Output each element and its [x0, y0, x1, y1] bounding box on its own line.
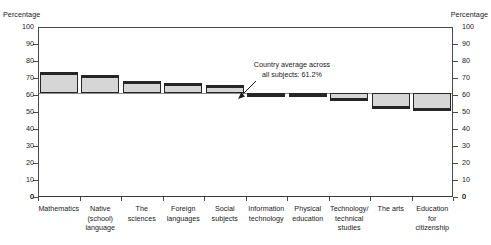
bar [123, 81, 161, 93]
left-axis-caption: Percentage [3, 10, 40, 19]
x-tick-mark [329, 197, 330, 201]
average-annotation-line1: Country average across [231, 60, 353, 70]
y-tick-mark-right [453, 78, 458, 79]
x-axis-label-line: sciences [121, 214, 163, 224]
x-tick-mark [163, 197, 164, 201]
right-axis-caption: Percentage [451, 10, 488, 19]
x-tick-mark [38, 197, 39, 201]
bar [81, 75, 119, 93]
x-axis-label-line: studies [329, 223, 371, 233]
x-axis-label-4: Socialsubjects [204, 204, 246, 223]
x-axis-label-1: Native(school)language [80, 204, 122, 233]
x-tick-mark [80, 197, 81, 201]
x-axis-label-line: Mathematics [38, 204, 80, 214]
x-axis-label-line: for [412, 214, 454, 224]
y-tick-label-right: 90 [462, 40, 480, 47]
y-tick-label-left: 70 [16, 74, 34, 81]
y-tick-label-left: 30 [16, 142, 34, 149]
y-tick-label-right: 80 [462, 57, 480, 64]
x-axis-label-2: Thesciences [121, 204, 163, 223]
x-axis-label-line: technology [246, 214, 288, 224]
bar [413, 93, 451, 111]
x-axis-label-7: Technology/technicalstudies [329, 204, 371, 233]
x-tick-mark [121, 197, 122, 201]
x-axis-label-line: Physical [287, 204, 329, 214]
y-tick-mark-right [453, 27, 458, 28]
y-tick-mark-right [453, 129, 458, 130]
y-tick-mark-right [453, 95, 458, 96]
x-axis-label-line: Foreign [163, 204, 205, 214]
x-tick-mark [287, 197, 288, 201]
y-tick-label-left: 60 [16, 91, 34, 98]
y-tick-label-right: 30 [462, 142, 480, 149]
y-tick-label-right: 20 [462, 159, 480, 166]
x-axis-label-line: technical [329, 214, 371, 224]
y-tick-label-left: 10 [16, 176, 34, 183]
x-axis-label-0: Mathematics [38, 204, 80, 214]
y-tick-label-left: 50 [16, 108, 34, 115]
x-axis-label-line: The [121, 204, 163, 214]
x-tick-mark [370, 197, 371, 201]
x-axis-label-line: language [80, 223, 122, 233]
bar [40, 72, 78, 93]
x-axis-label-line: Information [246, 204, 288, 214]
y-tick-mark-right [453, 180, 458, 181]
y-tick-label-left: 20 [16, 159, 34, 166]
bar [372, 93, 410, 109]
x-axis-label-line: Social [204, 204, 246, 214]
average-annotation: Country average across all subjects: 61.… [231, 60, 353, 79]
x-axis-label-3: Foreignlanguages [163, 204, 205, 223]
x-axis-label-line: The arts [370, 204, 412, 214]
y-tick-mark-right [453, 112, 458, 113]
y-tick-label-right: 40 [462, 125, 480, 132]
y-tick-label-right: 100 [462, 23, 480, 30]
bar [164, 83, 202, 93]
x-axis-label-line: education [287, 214, 329, 224]
bars-group [38, 27, 453, 197]
average-annotation-line2: all subjects: 61.2% [231, 70, 353, 80]
x-tick-mark [453, 197, 454, 201]
y-tick-mark-right [453, 44, 458, 45]
y-tick-label-right: 50 [462, 108, 480, 115]
x-axis-label-6: Physicaleducation [287, 204, 329, 223]
y-tick-mark-right [453, 61, 458, 62]
y-zero-label-right: 0 [462, 193, 466, 200]
x-axis-label-9: Educationforcitizenship [412, 204, 454, 233]
y-tick-label-left: 40 [16, 125, 34, 132]
y-zero-label-left: 0 [16, 193, 34, 200]
y-tick-label-right: 60 [462, 91, 480, 98]
x-axis-label-5: Informationtechnology [246, 204, 288, 223]
x-axis-label-line: subjects [204, 214, 246, 224]
x-axis-label-line: languages [163, 214, 205, 224]
x-axis-label-line: Native [80, 204, 122, 214]
y-tick-label-right: 10 [462, 176, 480, 183]
y-tick-mark-right [453, 163, 458, 164]
x-tick-mark [246, 197, 247, 201]
x-axis-label-line: citizenship [412, 223, 454, 233]
x-axis-label-line: (school) [80, 214, 122, 224]
x-axis-label-8: The arts [370, 204, 412, 214]
bar [330, 93, 368, 101]
y-tick-label-left: 100 [16, 23, 34, 30]
x-tick-mark [204, 197, 205, 201]
y-tick-label-right: 70 [462, 74, 480, 81]
y-tick-label-left: 90 [16, 40, 34, 47]
x-axis-label-line: Education [412, 204, 454, 214]
y-tick-mark-right [453, 146, 458, 147]
x-axis-label-line: Technology/ [329, 204, 371, 214]
x-tick-mark [412, 197, 413, 201]
x-axis: MathematicsNative(school)languageThescie… [38, 197, 453, 245]
bar [289, 93, 327, 97]
arrow-down-left-icon [236, 79, 258, 101]
y-tick-label-left: 80 [16, 57, 34, 64]
